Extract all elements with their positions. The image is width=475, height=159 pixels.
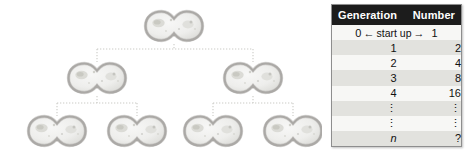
number-value: 4	[397, 55, 462, 70]
table-row: 4 16	[332, 86, 461, 101]
cell-division-figure: Generation Number 0 ← start up → 1	[0, 0, 475, 159]
generation-number-table: Generation Number 0 ← start up → 1	[332, 5, 461, 146]
cell-generation-0-item-1	[146, 12, 203, 41]
diagram-canvas	[0, 0, 322, 159]
table-row: 2 4	[332, 55, 461, 70]
table-header-row: Generation Number	[332, 5, 461, 25]
generation-ellipsis: ⋮	[332, 116, 397, 131]
connector-generation-1-to-2-left	[57, 96, 137, 116]
cell-generation-2-item-1	[29, 117, 86, 146]
cell-division-diagram	[0, 0, 322, 159]
connector-generation-0-to-1	[97, 44, 253, 62]
generation-value: 3	[332, 70, 397, 85]
number-ellipsis: ⋮	[397, 116, 462, 131]
table-row: 1 2	[332, 40, 461, 55]
table-row-ellipsis: ⋮ ⋮	[332, 116, 461, 131]
number-value-unknown: ?	[397, 131, 462, 146]
cell-generation-2-item-4	[265, 117, 322, 146]
right-arrow-icon: →	[414, 26, 425, 40]
startup-row-cell: 0 ← start up → 1	[332, 25, 461, 40]
table-row-n: n ?	[332, 131, 461, 146]
table-row-ellipsis: ⋮ ⋮	[332, 101, 461, 116]
connector-generation-1-to-2-right	[213, 96, 293, 116]
cell-generation-1-item-2	[225, 64, 282, 93]
column-header-generation: Generation	[332, 5, 397, 25]
table-row: 3 8	[332, 70, 461, 85]
cell-generation-1-item-1	[69, 64, 126, 93]
generation-ellipsis: ⋮	[332, 101, 397, 116]
table-row-startup: 0 ← start up → 1	[332, 25, 461, 40]
number-value: 8	[397, 70, 462, 85]
number-value: 2	[397, 40, 462, 55]
generation-value-n: n	[332, 131, 397, 146]
startup-label: start up	[376, 26, 411, 40]
cell-generation-2-item-3	[185, 117, 242, 146]
column-header-number: Number	[397, 5, 462, 25]
generation-value: 4	[332, 86, 397, 101]
cell-generation-2-item-2	[109, 117, 166, 146]
startup-generation-value: 0	[335, 26, 361, 40]
number-ellipsis: ⋮	[397, 101, 462, 116]
table-header: Generation Number	[332, 5, 461, 25]
generation-value: 2	[332, 55, 397, 70]
number-value: 16	[397, 86, 462, 101]
table-body: 0 ← start up → 1 1 2 2 4	[332, 25, 461, 146]
startup-number-value: 1	[427, 26, 458, 40]
left-arrow-icon: ←	[363, 26, 374, 40]
generation-number-table-panel: Generation Number 0 ← start up → 1	[331, 4, 462, 147]
generation-value: 1	[332, 40, 397, 55]
